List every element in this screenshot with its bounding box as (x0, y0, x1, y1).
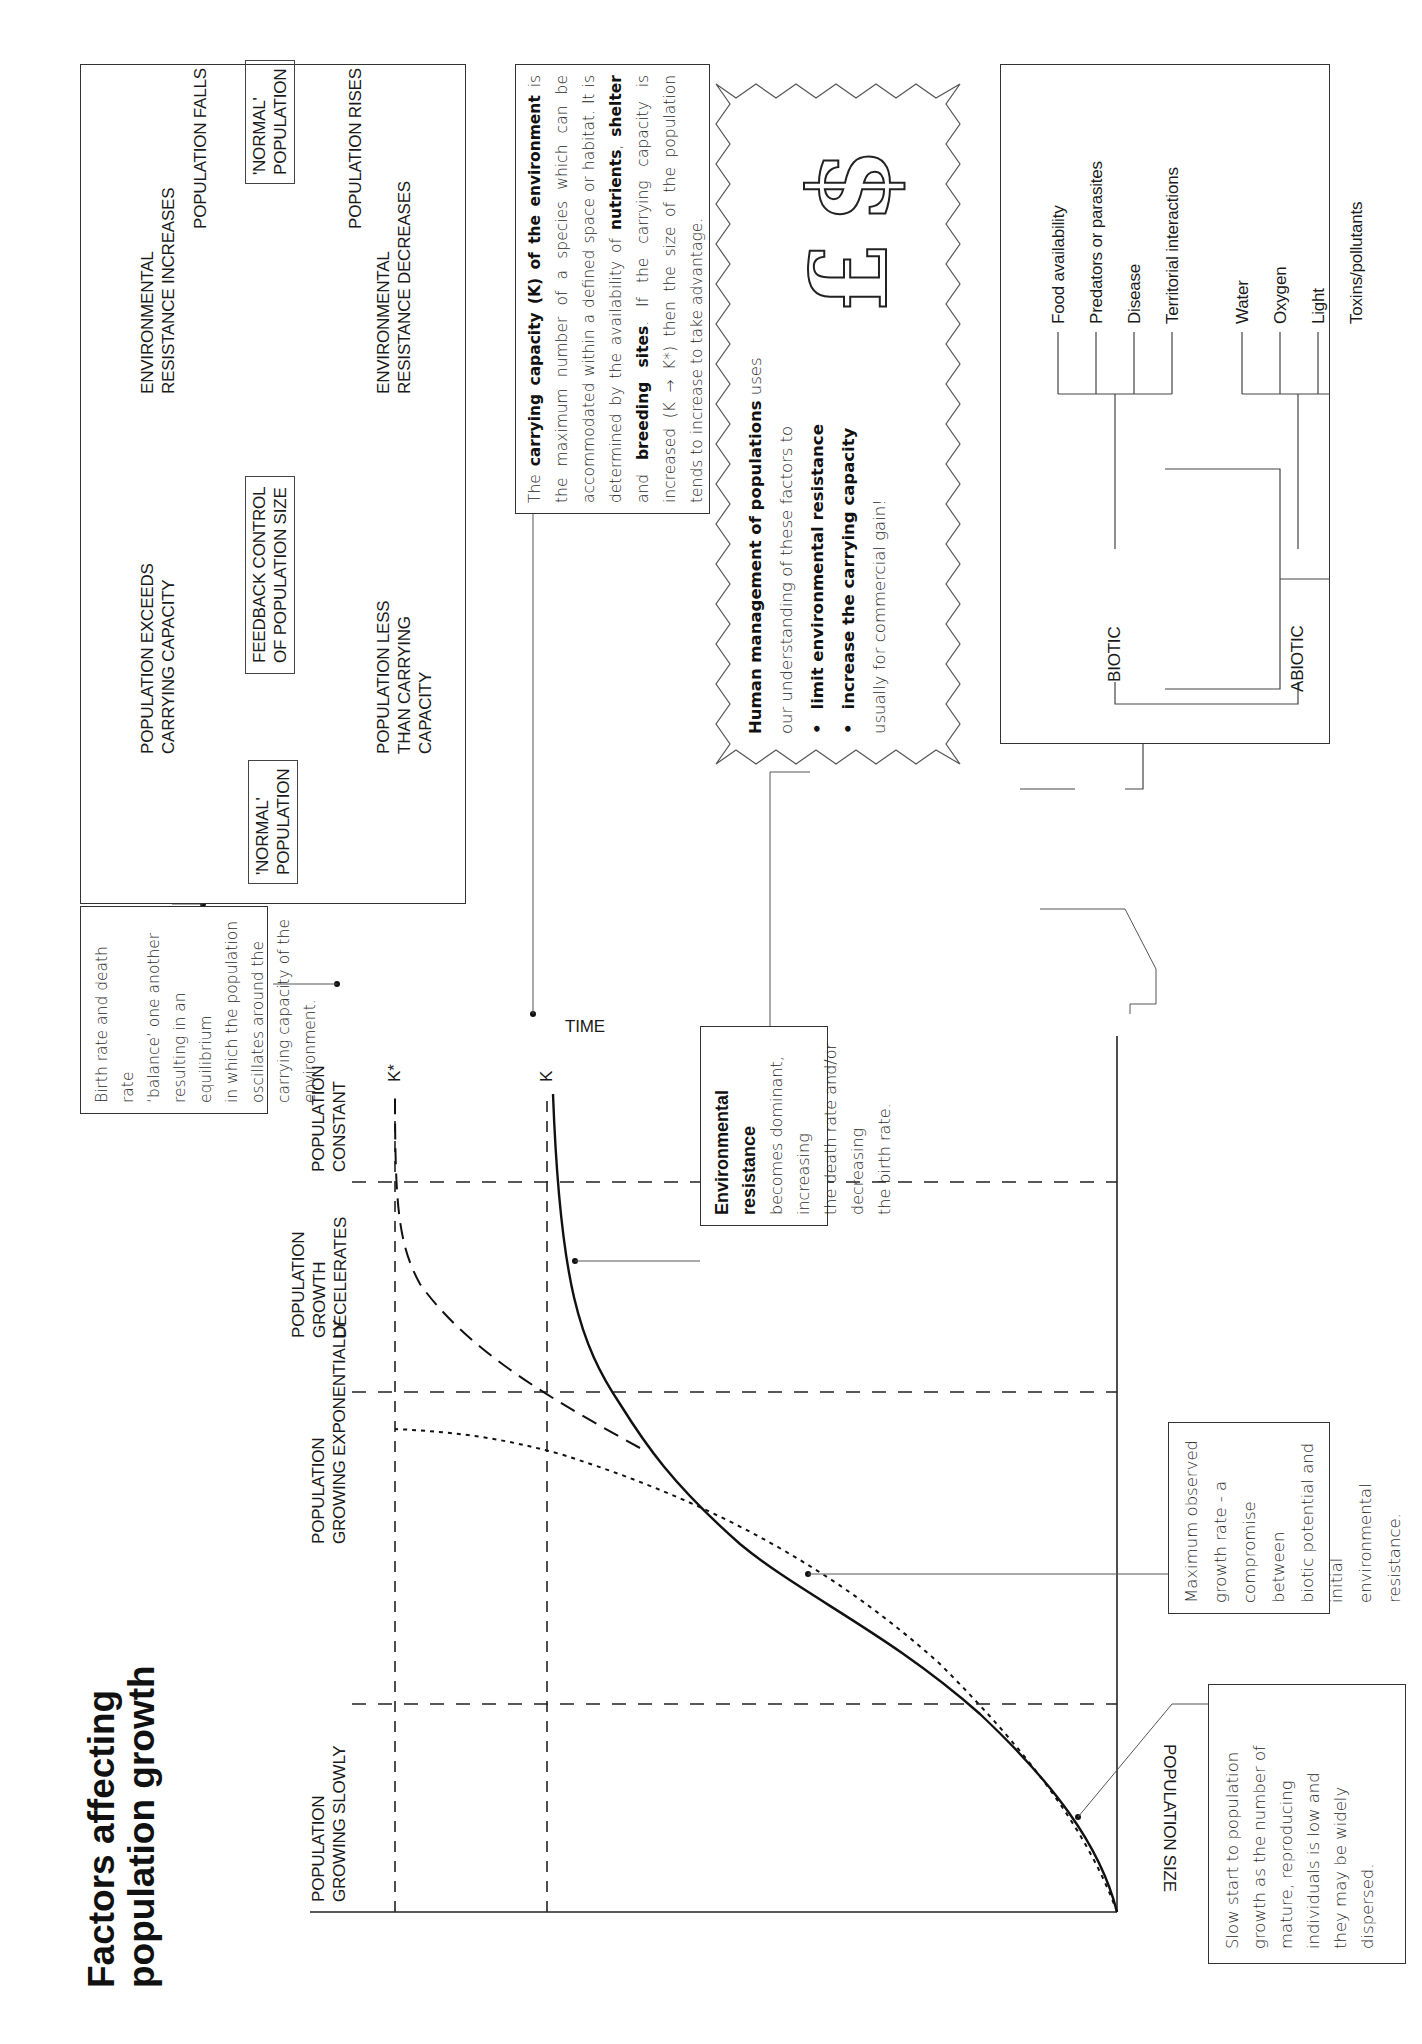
phase-label-slow: POPULATIONGROWING SLOWLY (308, 1745, 350, 1902)
factor-disease: Disease (1124, 264, 1145, 324)
abiotic-label: ABIOTIC (1287, 625, 1308, 692)
factors-branches (1000, 64, 1330, 744)
normal-population-end: 'NORMAL' POPULATION (245, 60, 295, 184)
balance-note: Birth rate and death rate ‘balance’ one … (80, 906, 268, 1114)
factor-food: Food availability (1048, 206, 1069, 325)
factors-connector-a (1130, 1004, 1156, 1014)
factor-oxygen: Oxygen (1270, 267, 1291, 324)
slow-start-connector (1078, 1704, 1208, 1817)
y-axis-label: POPULATION SIZE (1159, 1744, 1180, 1892)
dollar-symbol-icon: $ (795, 147, 905, 224)
population-falls-label: POPULATION FALLS (190, 68, 211, 229)
bullet-increase-capacity: •increase the carrying capacity (833, 354, 864, 734)
carrying-capacity-note: The carrying capacity (K) of the environ… (515, 64, 710, 514)
exceeds-capacity-label: POPULATION EXCEEDS CARRYING CAPACITY (137, 563, 179, 754)
phase-label-exponential: POPULATIONGROWING EXPONENTIALLY (308, 1320, 350, 1544)
factor-predators: Predators or parasites (1086, 161, 1107, 324)
pound-symbol-icon: £ (795, 242, 905, 314)
er-decreases-label: ENVIRONMENTAL RESISTANCE DECREASES (373, 181, 415, 394)
x-axis-label: TIME (565, 1016, 605, 1037)
factor-water: Water (1232, 280, 1253, 324)
bullet-limit-resistance: •limit environmental resistance (802, 354, 833, 734)
phase-label-decelerates: POPULATIONGROWTHDECELERATES (288, 1217, 351, 1338)
kstar-curve (395, 1094, 640, 1448)
infographic-canvas: Factors affecting population growth (0, 0, 1422, 2044)
less-than-capacity-label: POPULATION LESS THAN CARRYING CAPACITY (373, 600, 436, 754)
logistic-curve (553, 1094, 1117, 1912)
env-to-human-connector (758, 772, 810, 1041)
population-rises-label: POPULATION RISES (345, 68, 366, 229)
factor-territorial: Territorial interactions (1162, 167, 1183, 324)
factors-connector-b (1040, 909, 1156, 1004)
factor-light: Light (1308, 288, 1329, 324)
exponential-curve (395, 1429, 1117, 1912)
max-growth-note: Maximum observed growth rate - a comprom… (1168, 1422, 1330, 1614)
env-resistance-note: Environmental resistance becomes dominan… (700, 1026, 828, 1226)
human-management-note: Human management of populations uses our… (740, 354, 895, 734)
kstar-label: K* (384, 1064, 405, 1082)
feedback-center-label: FEEDBACK CONTROL OF POPULATION SIZE (245, 476, 295, 674)
factor-toxins: Toxins/pollutants (1346, 202, 1367, 324)
k-label: K (536, 1071, 557, 1082)
slow-start-note: Slow start to population growth as the n… (1208, 1684, 1406, 1964)
er-increases-label: ENVIRONMENTAL RESISTANCE INCREASES (137, 188, 179, 394)
normal-population-start: 'NORMAL' POPULATION (248, 760, 298, 884)
biotic-label: BIOTIC (1104, 627, 1125, 682)
